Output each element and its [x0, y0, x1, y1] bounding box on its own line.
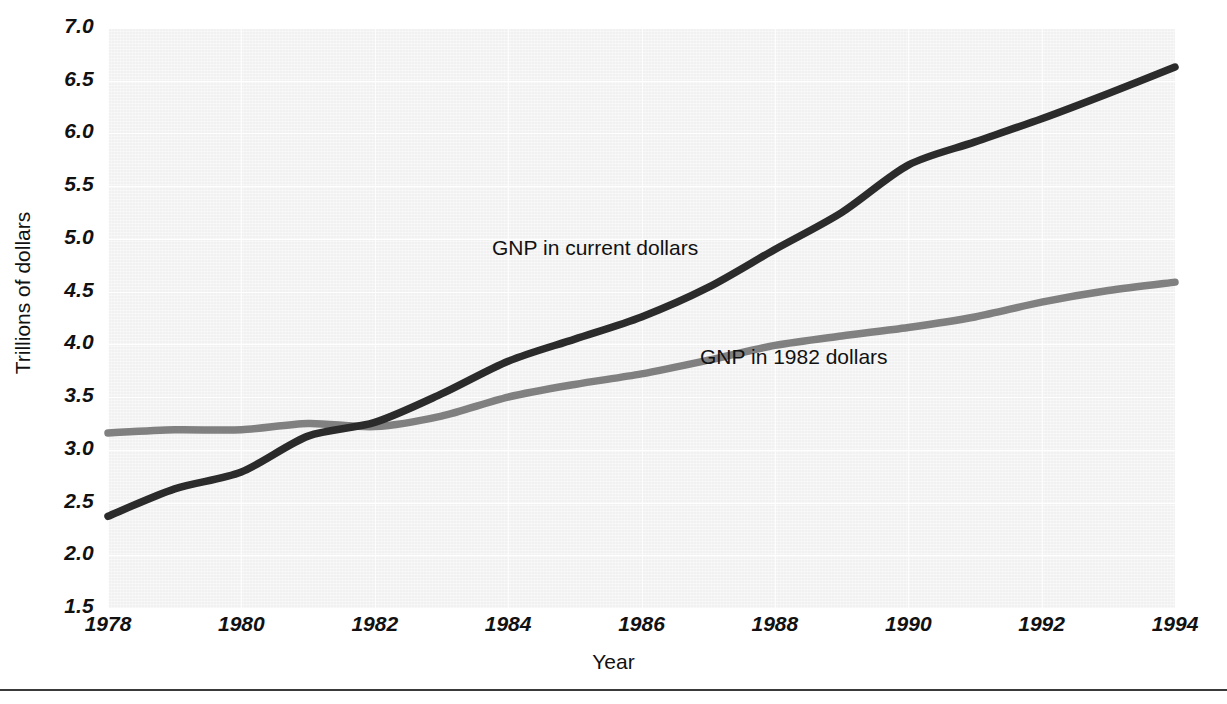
annotation-gnp-current-dollars: GNP in current dollars	[492, 236, 698, 260]
gnp-line-chart-figure: 7.06.56.05.55.04.54.03.53.02.52.01.5 197…	[0, 0, 1227, 704]
footer-rule	[0, 689, 1227, 691]
series-lines	[0, 0, 1227, 704]
line-gnp-current-dollars	[108, 282, 1175, 433]
annotation-gnp-1982-dollars: GNP in 1982 dollars	[700, 345, 888, 369]
line-gnp-1982-dollars	[108, 67, 1175, 516]
